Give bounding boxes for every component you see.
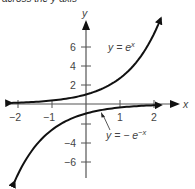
label-exp-x: y = ex (107, 40, 135, 53)
x-tick-labels: −2 −1 1 2 (9, 111, 157, 123)
pointer-arrow (101, 112, 110, 130)
y-tick-label: 4 (70, 60, 76, 72)
x-tick-label: 1 (117, 111, 123, 123)
y-tick-label: 2 (70, 79, 76, 91)
x-tick-label: 2 (151, 111, 157, 123)
graph: −2 −1 1 2 6 4 2 −4 −6 x y y = ex y = − e… (0, 0, 195, 189)
x-axis-label: x (182, 98, 189, 110)
x-tick-label: −2 (9, 111, 21, 123)
y-tick-label: −4 (64, 137, 76, 149)
x-tick-label: −1 (43, 111, 55, 123)
y-tick-label: −6 (64, 156, 76, 168)
y-axis-label: y (81, 7, 88, 19)
y-tick-label: 6 (70, 41, 76, 53)
label-neg-exp-neg-x: y = − e−x (105, 128, 146, 141)
